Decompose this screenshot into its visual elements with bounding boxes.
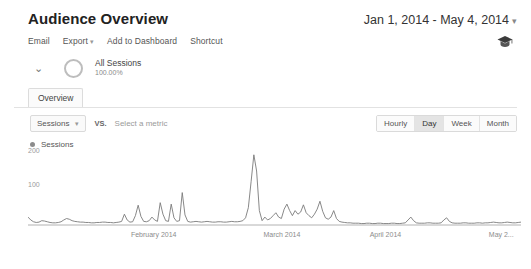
granularity-day[interactable]: Day bbox=[415, 116, 444, 131]
x-axis-tick-label: February 2014 bbox=[131, 231, 177, 238]
granularity-week[interactable]: Week bbox=[444, 116, 479, 131]
shortcut-button[interactable]: Shortcut bbox=[190, 36, 222, 46]
date-range-label: Jan 1, 2014 - May 4, 2014 bbox=[364, 13, 509, 27]
email-button[interactable]: Email bbox=[28, 36, 50, 46]
page-title: Audience Overview bbox=[28, 10, 168, 27]
page-header: Audience Overview Jan 1, 2014 - May 4, 2… bbox=[0, 0, 531, 27]
tabs-bar: Overview bbox=[0, 83, 531, 107]
sessions-line-chart[interactable]: 200 100 bbox=[28, 151, 521, 229]
secondary-metric-selector[interactable]: Select a metric bbox=[115, 119, 168, 128]
chevron-down-icon: ▾ bbox=[90, 38, 94, 45]
x-axis-labels: February 2014March 2014April 2014May 2..… bbox=[28, 229, 521, 243]
segment-row: ⌄ All Sessions 100.00% bbox=[0, 47, 531, 83]
x-axis-tick-label: April 2014 bbox=[370, 231, 402, 238]
chevron-down-icon[interactable]: ⌄ bbox=[30, 62, 46, 75]
segment-percent: 100.00% bbox=[95, 69, 141, 78]
chevron-down-icon: ▾ bbox=[512, 16, 517, 26]
granularity-month[interactable]: Month bbox=[480, 116, 516, 131]
export-label: Export bbox=[63, 36, 88, 46]
segment-info[interactable]: All Sessions 100.00% bbox=[95, 58, 141, 77]
chevron-down-icon: ▾ bbox=[75, 120, 79, 127]
segment-donut-icon bbox=[64, 59, 83, 78]
x-axis-tick-label: May 2... bbox=[489, 231, 514, 238]
graduation-cap-icon[interactable] bbox=[497, 34, 513, 47]
granularity-hourly[interactable]: Hourly bbox=[377, 116, 415, 131]
export-button[interactable]: Export▾ bbox=[63, 36, 94, 46]
primary-metric-dropdown[interactable]: Sessions▾ bbox=[30, 115, 86, 132]
legend-series-label: Sessions bbox=[41, 140, 73, 149]
primary-metric-label: Sessions bbox=[37, 119, 69, 128]
action-toolbar: Email Export▾ Add to Dashboard Shortcut bbox=[0, 27, 531, 47]
granularity-button-group: Hourly Day Week Month bbox=[376, 115, 517, 132]
date-range-picker[interactable]: Jan 1, 2014 - May 4, 2014▾ bbox=[364, 13, 517, 27]
vs-label: VS. bbox=[94, 119, 106, 128]
tab-overview[interactable]: Overview bbox=[28, 88, 83, 107]
x-axis-tick-label: March 2014 bbox=[263, 231, 300, 238]
segment-name: All Sessions bbox=[95, 58, 141, 69]
add-to-dashboard-button[interactable]: Add to Dashboard bbox=[107, 36, 177, 46]
metric-selector-row: Sessions▾ VS. Select a metric Hourly Day… bbox=[0, 108, 531, 132]
chart-plot-svg bbox=[28, 151, 521, 229]
chart-legend: Sessions bbox=[0, 132, 531, 149]
